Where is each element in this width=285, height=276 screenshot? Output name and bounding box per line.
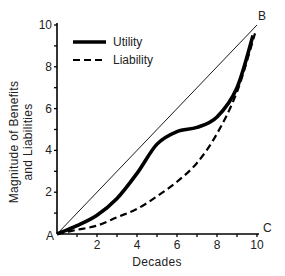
y-axis-title-line-2: and Liabilities	[21, 103, 35, 180]
corner-label-a: A	[46, 229, 54, 243]
legend: UtilityLiability	[73, 35, 153, 67]
y-tick-label: 4	[45, 143, 52, 157]
y-tick-label: 2	[45, 185, 52, 199]
chart: 246810246810 UtilityLiability Decades Ma…	[0, 0, 285, 276]
y-tick-label: 10	[39, 18, 53, 32]
legend-label-utility: Utility	[113, 35, 142, 49]
x-tick-label: 10	[250, 238, 264, 252]
x-axis-title: Decades	[132, 255, 181, 269]
x-tick-label: 6	[174, 238, 181, 252]
series-lines	[57, 25, 257, 234]
corner-label-c: C	[263, 221, 272, 235]
x-tick-label: 2	[94, 238, 101, 252]
reference-diagonal-line	[57, 25, 257, 234]
x-tick-label: 4	[134, 238, 141, 252]
series-utility-line	[57, 35, 253, 234]
series-liability-line	[57, 33, 255, 234]
y-tick-label: 8	[45, 60, 52, 74]
y-axis-title-line-1: Magnitude of Benefits	[7, 81, 21, 203]
corner-label-b: B	[258, 9, 266, 23]
legend-label-liability: Liability	[113, 53, 153, 67]
x-tick-label: 8	[214, 238, 221, 252]
y-tick-label: 6	[45, 102, 52, 116]
